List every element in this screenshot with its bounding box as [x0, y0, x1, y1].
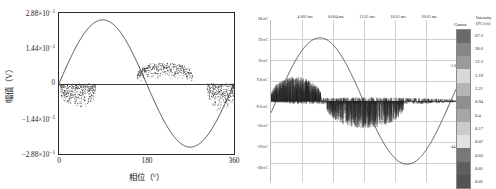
legend-value-3: 5.19 — [475, 73, 483, 78]
legend-swatch-4 — [457, 83, 470, 96]
legend-swatch-8 — [457, 135, 470, 148]
waveform-ytick-1: 19 nC — [258, 38, 268, 42]
waveform-intensity-legend: Gamut Intensity [PC/s/s] 67.328.612.25.1… — [456, 12, 496, 189]
prpd-xtick-0: 0 — [57, 157, 61, 164]
prpd-ytick-1: 1.44×10−1 — [26, 44, 55, 54]
waveform-ytick-6: -19 nC — [256, 145, 268, 149]
waveform-ytick-7: -28 nC — [256, 166, 268, 170]
legend-swatch-10 — [457, 162, 470, 175]
prpd-plot-area — [58, 12, 235, 155]
prpd-data-svg — [59, 13, 234, 154]
waveform-ytick-0: 28 nC — [258, 17, 268, 21]
legend-swatch-9 — [457, 148, 470, 161]
prpd-y-axis-title: 幅值（V） — [2, 49, 14, 119]
waveform-xtick-0: 4.002 ms — [297, 15, 312, 19]
legend-value-0: 67.3 — [475, 33, 483, 38]
legend-value-2: 12.2 — [475, 60, 483, 65]
prpd-xtick-1: 180 — [141, 157, 152, 164]
legend-swatch-6 — [457, 109, 470, 122]
legend-title-line2: [PC/s/s] — [476, 21, 496, 27]
waveform-xtick-1: 8.004 ms — [328, 15, 343, 19]
waveform-xtick-2: 12.01 ms — [359, 15, 374, 19]
waveform-ytick-4: -9.6 nC — [255, 105, 268, 109]
legend-value-labels: 67.328.612.25.192.210.940.40.170.070.030… — [475, 29, 496, 189]
waveform-ytick-5: -10 nC — [256, 124, 268, 128]
legend-value-6: 0.4 — [475, 113, 481, 118]
prpd-x-axis-title: 相位（°） — [58, 170, 235, 182]
prpd-xtick-2: 360 — [228, 157, 239, 164]
legend-swatch-2 — [457, 56, 470, 69]
waveform-ytick-3: 9.6 nC — [257, 78, 268, 82]
prpd-ytick-3: −1.44×10−1 — [22, 115, 55, 125]
pd-waveform-panel: 4.002 ms8.004 ms12.01 ms16.01 ms20.01 ms… — [248, 0, 496, 189]
legend-gamut-label: Gamut — [454, 22, 467, 27]
legend-colorbar — [456, 29, 471, 189]
legend-value-11: 0.01 — [475, 180, 483, 185]
legend-swatch-7 — [457, 122, 470, 135]
figure-container: 2.88×10−1 1.44×10−1 0 −1.44×10−1 −2.88×1… — [0, 0, 496, 189]
waveform-ytick-2: 10 nC — [258, 59, 268, 63]
waveform-plot-area: +1.60 mV-44.3 mV — [270, 20, 456, 182]
prpd-phase-plot-panel: 2.88×10−1 1.44×10−1 0 −1.44×10−1 −2.88×1… — [0, 0, 248, 189]
legend-value-5: 0.94 — [475, 100, 483, 105]
legend-value-7: 0.17 — [475, 127, 483, 132]
waveform-xtick-4: 20.01 ms — [421, 15, 436, 19]
prpd-x-axis-tick-labels: 0 180 360 — [0, 157, 248, 171]
legend-swatch-11 — [457, 175, 470, 188]
prpd-ytick-2: 0 — [51, 80, 55, 87]
legend-swatch-1 — [457, 43, 470, 56]
waveform-data-svg — [271, 20, 456, 182]
prpd-ytick-0: 2.88×10−1 — [26, 9, 55, 19]
legend-swatch-5 — [457, 96, 470, 109]
legend-swatch-3 — [457, 69, 470, 82]
legend-swatch-0 — [457, 30, 470, 43]
legend-value-1: 28.6 — [475, 47, 483, 52]
legend-value-9: 0.03 — [475, 153, 483, 158]
legend-title: Intensity [PC/s/s] — [476, 15, 496, 26]
legend-value-8: 0.07 — [475, 140, 483, 145]
legend-value-10: 0.01 — [475, 167, 483, 172]
waveform-xtick-3: 16.01 ms — [390, 15, 405, 19]
legend-value-4: 2.21 — [475, 87, 483, 92]
